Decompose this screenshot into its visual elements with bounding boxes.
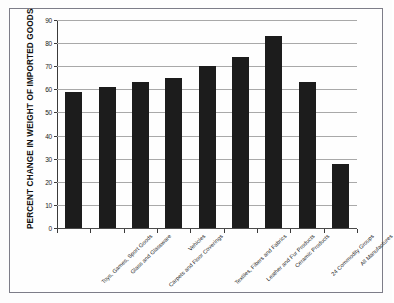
y-tick-label: 90 (45, 17, 52, 24)
y-tick-mark (54, 205, 57, 206)
y-tick-label: 40 (45, 132, 52, 139)
y-tick-mark (54, 136, 57, 137)
y-tick-label: 50 (45, 109, 52, 116)
y-tick-label: 20 (45, 178, 52, 185)
y-tick-label: 30 (45, 155, 52, 162)
y-tick-mark (54, 159, 57, 160)
y-tick-mark (54, 20, 57, 21)
bar (265, 36, 282, 228)
gridline (57, 20, 357, 21)
y-tick-label: 10 (45, 201, 52, 208)
x-axis-labels: Toys, Games, Sport GoodsGlass and Glassw… (57, 233, 367, 293)
y-tick-label: 80 (45, 40, 52, 47)
y-tick-label: 70 (45, 63, 52, 70)
y-tick-mark (54, 89, 57, 90)
bar (332, 164, 349, 228)
x-axis-label: Textiles, Fibers and Fabrics (234, 233, 288, 286)
y-tick-mark (54, 112, 57, 113)
y-tick-mark (54, 66, 57, 67)
bar (299, 82, 316, 228)
bar (99, 87, 116, 228)
y-tick-mark (54, 182, 57, 183)
bar (165, 78, 182, 228)
plot-area: 0102030405060708090 (57, 20, 357, 228)
bar (199, 66, 216, 228)
gridline (57, 43, 357, 44)
y-tick-label: 60 (45, 86, 52, 93)
bar (132, 82, 149, 228)
bar (232, 57, 249, 228)
y-axis-title: PERCENT CHANGE IN WEIGHT OF IMPORTED GOO… (24, 20, 37, 229)
y-tick-label: 0 (49, 225, 52, 232)
y-tick-mark (54, 43, 57, 44)
bar (65, 92, 82, 228)
